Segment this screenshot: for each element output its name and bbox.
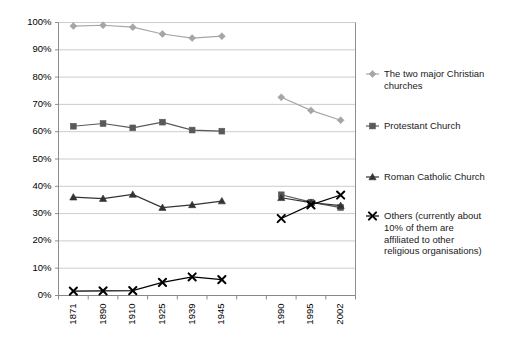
- x-axis-tick-label: 2002: [334, 304, 345, 325]
- y-axis-tick-label: 30%: [32, 207, 52, 218]
- legend-label: The two major Christian: [384, 68, 484, 79]
- data-point-square: [70, 123, 76, 129]
- legend-label: religious organisations): [384, 245, 482, 256]
- data-point-square: [100, 121, 106, 127]
- y-axis-tick-label: 60%: [32, 125, 52, 136]
- x-axis-tick-label: 1890: [97, 304, 108, 325]
- y-axis-tick-label: 40%: [32, 180, 52, 191]
- data-point-square: [370, 123, 376, 129]
- y-axis-tick-label: 70%: [32, 98, 52, 109]
- legend-label: 10% of them are: [384, 222, 454, 233]
- y-axis-tick-label: 10%: [32, 262, 52, 273]
- legend-label: Roman Catholic Church: [384, 171, 485, 182]
- y-axis-tick-label: 0%: [38, 289, 52, 300]
- chart-container: 0%10%20%30%40%50%60%70%80%90%100% 187118…: [0, 0, 508, 343]
- x-axis-tick-label: 1995: [304, 304, 315, 325]
- data-point-square: [160, 119, 166, 125]
- x-axis-tick-label: 1945: [215, 304, 226, 325]
- y-axis-tick-label: 20%: [32, 234, 52, 245]
- y-axis-tick-label: 50%: [32, 153, 52, 164]
- data-point-square: [189, 127, 195, 133]
- data-point-square: [219, 128, 225, 134]
- religious-affiliation-line-chart: 0%10%20%30%40%50%60%70%80%90%100% 187118…: [0, 0, 508, 343]
- x-axis-tick-label: 1925: [156, 304, 167, 325]
- x-axis-tick-label: 1871: [67, 304, 78, 325]
- legend-label: churches: [384, 80, 423, 91]
- x-axis-tick-label: 1939: [186, 304, 197, 325]
- legend-item-2[interactable]: Roman Catholic Church: [366, 171, 485, 182]
- x-axis-tick-label: 1990: [275, 304, 286, 325]
- legend-label: affiliated to other: [384, 234, 454, 245]
- y-axis-tick-label: 80%: [32, 71, 52, 82]
- data-point-square: [130, 125, 136, 131]
- y-axis-tick-label: 90%: [32, 43, 52, 54]
- legend-label: Others (currently about: [384, 210, 482, 221]
- y-axis-tick-label: 100%: [27, 16, 52, 27]
- x-axis-tick-label: 1910: [126, 304, 137, 325]
- legend-label: Protestant Church: [384, 120, 461, 131]
